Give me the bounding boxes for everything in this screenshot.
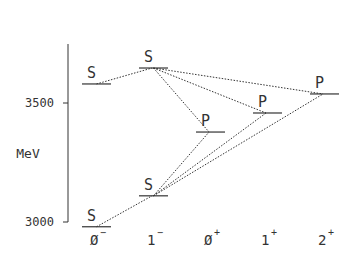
level-label: P [258, 93, 267, 111]
column-label-1m: 1 [147, 232, 155, 248]
level-label: S [144, 48, 153, 66]
column-parity-sup: + [328, 227, 334, 238]
transition-line [154, 132, 210, 196]
column-label-0p: Ø [204, 232, 213, 248]
level-label: S [144, 176, 153, 194]
column-parity-sup: − [100, 227, 106, 238]
level-label: S [87, 64, 96, 82]
transition-line [154, 68, 267, 113]
transition-line [97, 68, 153, 84]
column-label-1p: 1 [261, 232, 269, 248]
transition-line [154, 68, 324, 94]
energy-level-diagram: 30003500 MeV SSSSPPP Ø−1−Ø+1+2+ [0, 0, 355, 265]
y-tick-label: 3500 [25, 96, 54, 110]
level-label: P [315, 74, 324, 92]
column-parity-sup: + [271, 227, 277, 238]
level-label: P [201, 112, 210, 130]
column-label-0m: Ø [90, 232, 99, 248]
column-parity-sup: + [214, 227, 220, 238]
transition-line [97, 196, 153, 227]
y-tick-label: 3000 [25, 215, 54, 229]
y-axis-unit-label: MeV [16, 146, 40, 161]
level-label: S [87, 207, 96, 225]
column-label-2p: 2 [318, 232, 326, 248]
transition-line [154, 94, 324, 196]
column-parity-sup: − [157, 227, 163, 238]
